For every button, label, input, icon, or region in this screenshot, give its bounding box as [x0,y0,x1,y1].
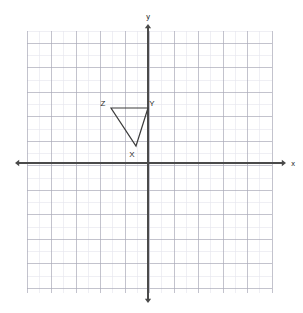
axes [15,24,286,303]
vertex-label-x: X [129,150,135,159]
coordinate-plane: xyXYZ [0,0,303,313]
y-axis-down-arrow-icon [145,299,151,303]
vertex-label-y: Y [149,99,155,108]
x-axis-right-arrow-icon [282,160,286,166]
vertex-label-z: Z [101,99,106,108]
y-axis-up-arrow-icon [145,24,151,28]
coordinate-plane-svg: xyXYZ [0,0,303,313]
triangle-xyz-outline [111,108,148,146]
labels: xyXYZ [101,12,296,168]
y-axis-label: y [146,12,150,21]
x-axis-label: x [291,159,295,168]
x-axis-left-arrow-icon [15,160,19,166]
triangle-shape [111,108,148,146]
